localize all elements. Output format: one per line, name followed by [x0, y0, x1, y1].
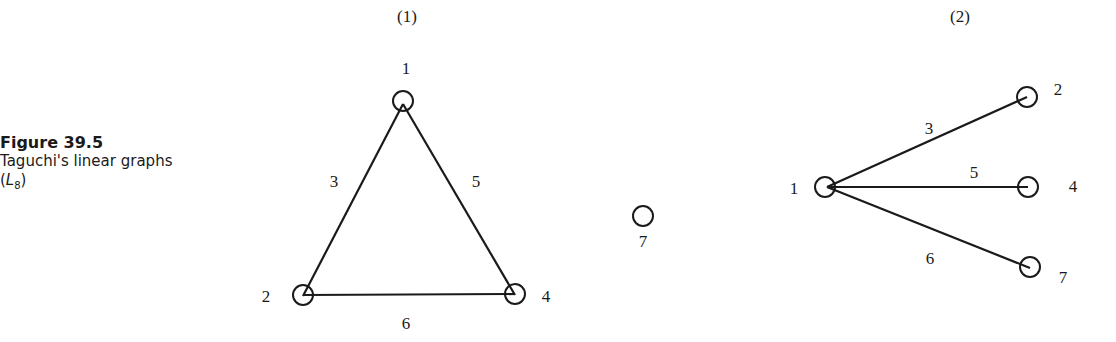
graph-2-node-2-label: 2 [1054, 80, 1063, 99]
graph-2-node-7-label: 7 [1059, 268, 1068, 287]
graph-1-edge-1-2 [303, 104, 403, 296]
graph-2-edge-1-7-label: 6 [926, 249, 935, 268]
graph-2-edge-1-2-label: 3 [925, 119, 934, 138]
graph-2-node-1-label: 1 [790, 179, 799, 198]
graph-1-node-4-label: 4 [542, 287, 551, 306]
graph-2-node-4-label: 4 [1069, 177, 1078, 196]
graph-1-node-2-label: 2 [262, 287, 271, 306]
graph-1-title: (1) [397, 7, 417, 26]
graph-1-edge-1-2-label: 3 [330, 172, 339, 191]
linear-graphs-diagram: (1) 1 2 4 7 3 5 6 (2) 1 2 4 7 3 5 6 [0, 0, 1116, 342]
graph-1-node-1 [393, 91, 413, 111]
graph-1-node-1-label: 1 [402, 59, 411, 78]
graph-1: (1) 1 2 4 7 3 5 6 [262, 7, 653, 333]
graph-1-edge-2-4-label: 6 [402, 314, 411, 333]
graph-1-node-7-label: 7 [639, 232, 648, 251]
graph-2-edge-1-4-label: 5 [970, 163, 979, 182]
graph-1-edge-2-4 [303, 294, 515, 295]
graph-1-edge-1-4-label: 5 [472, 172, 481, 191]
graph-2-edge-1-2 [827, 97, 1027, 187]
graph-2: (2) 1 2 4 7 3 5 6 [790, 7, 1078, 287]
graph-1-node-7 [633, 206, 653, 226]
graph-1-edge-1-4 [403, 104, 515, 295]
graph-2-title: (2) [950, 7, 970, 26]
